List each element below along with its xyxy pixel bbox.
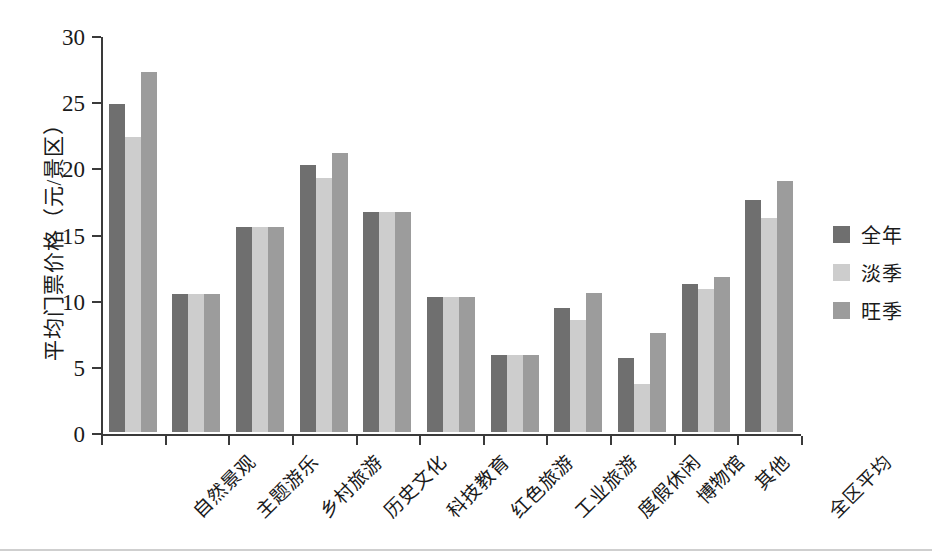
bar	[523, 355, 539, 432]
x-tick-label: 历史文化	[377, 448, 451, 522]
x-tick-mark	[165, 436, 167, 445]
x-tick-mark	[419, 436, 421, 445]
y-axis-line	[101, 37, 103, 436]
x-tick-label: 其他	[747, 448, 794, 495]
bar	[491, 355, 507, 432]
bar-chart-figure: 平均门票价格（元/景区） 051015202530 自然景观主题游乐乡村旅游历史…	[0, 0, 932, 551]
bar	[714, 277, 730, 432]
x-tick-label: 红色旅游	[504, 448, 578, 522]
bar	[395, 212, 411, 432]
bar	[363, 212, 379, 432]
bar	[109, 104, 125, 432]
bar	[586, 293, 602, 432]
bar	[650, 333, 666, 432]
y-tick-mark	[92, 168, 101, 170]
x-tick-mark	[356, 436, 358, 445]
bar	[570, 320, 586, 432]
bar	[188, 294, 204, 432]
bar	[761, 218, 777, 432]
y-tick-label: 0	[25, 423, 85, 446]
y-tick-mark	[92, 301, 101, 303]
y-tick-mark	[92, 367, 101, 369]
x-tick-mark	[101, 436, 103, 445]
legend-swatch	[833, 302, 850, 319]
y-tick-label: 20	[25, 158, 85, 181]
y-tick-mark	[92, 36, 101, 38]
x-tick-label: 博物馆	[689, 448, 749, 508]
x-tick-label: 主题游乐	[249, 448, 323, 522]
bar	[252, 227, 268, 432]
bar	[634, 384, 650, 432]
legend-item: 旺季	[833, 291, 928, 329]
bar-group	[236, 35, 284, 432]
bar	[300, 165, 316, 432]
x-tick-mark	[674, 436, 676, 445]
legend-label: 全年	[861, 220, 903, 249]
x-tick-mark	[610, 436, 612, 445]
y-tick-label: 25	[25, 92, 85, 115]
y-tick-label: 5	[25, 357, 85, 380]
bar	[745, 200, 761, 432]
plot-area: 051015202530	[101, 37, 801, 434]
x-tick-mark	[483, 436, 485, 445]
y-tick-mark	[92, 433, 101, 435]
x-tick-mark	[546, 436, 548, 445]
bar	[507, 355, 523, 432]
y-tick-label: 15	[25, 225, 85, 248]
legend-swatch	[833, 264, 850, 281]
bar	[236, 227, 252, 432]
x-tick-label: 全区平均	[822, 448, 896, 522]
legend-item: 全年	[833, 215, 928, 253]
x-tick-label: 工业旅游	[567, 448, 641, 522]
bar	[379, 212, 395, 432]
legend-item: 淡季	[833, 253, 928, 291]
bar-group	[172, 35, 220, 432]
x-tick-label: 乡村旅游	[313, 448, 387, 522]
legend-label: 淡季	[861, 258, 903, 287]
bar-group	[363, 35, 411, 432]
x-tick-label: 科技教育	[440, 448, 514, 522]
x-axis-line	[101, 434, 801, 436]
bar	[141, 72, 157, 432]
y-tick-label: 30	[25, 26, 85, 49]
bar	[682, 284, 698, 432]
bar	[698, 289, 714, 432]
bar	[172, 294, 188, 432]
legend-swatch	[833, 226, 850, 243]
x-tick-mark	[228, 436, 230, 445]
x-tick-mark	[737, 436, 739, 445]
bar-group	[682, 35, 730, 432]
bar-group	[300, 35, 348, 432]
legend: 全年淡季旺季	[833, 215, 928, 329]
y-tick-mark	[92, 102, 101, 104]
bar	[204, 294, 220, 432]
bar	[125, 137, 141, 432]
bar	[427, 297, 443, 432]
x-tick-label: 自然景观	[186, 448, 260, 522]
bar	[459, 297, 475, 432]
x-tick-mark	[801, 436, 803, 445]
bar	[554, 308, 570, 432]
x-tick-mark	[292, 436, 294, 445]
bar	[443, 297, 459, 432]
bar-group	[618, 35, 666, 432]
y-tick-mark	[92, 235, 101, 237]
legend-label: 旺季	[861, 296, 903, 325]
bar	[316, 178, 332, 432]
bar-group	[491, 35, 539, 432]
bar-group	[554, 35, 602, 432]
bar	[268, 227, 284, 432]
bar-group	[427, 35, 475, 432]
bar	[618, 358, 634, 432]
bar-group	[109, 35, 157, 432]
y-tick-label: 10	[25, 291, 85, 314]
bar	[332, 153, 348, 432]
bar-group	[745, 35, 793, 432]
bar	[777, 181, 793, 432]
